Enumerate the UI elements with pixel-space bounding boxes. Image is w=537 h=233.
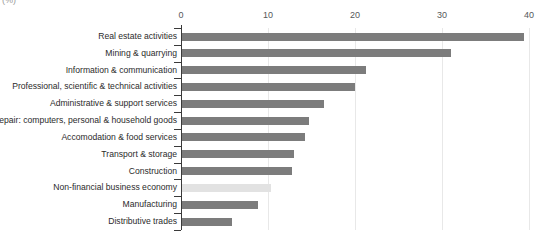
x-tick-label-30: 30 — [437, 10, 447, 20]
y-axis-tick — [174, 112, 181, 113]
y-axis-tick — [174, 45, 181, 46]
category-label: Information & communication — [66, 65, 177, 75]
x-axis-tick-labels: 010203040 — [0, 10, 537, 24]
y-axis-tick — [174, 78, 181, 79]
category-label: Manufacturing — [123, 199, 177, 209]
bar-row-end — [0, 230, 537, 233]
bar — [182, 117, 309, 125]
y-axis-tick — [174, 196, 181, 197]
category-label: Construction — [129, 166, 177, 176]
category-label: Repair: computers, personal & household … — [0, 115, 177, 125]
bar — [182, 133, 305, 141]
bar-row: Information & communication — [0, 62, 537, 79]
y-axis-tick — [174, 213, 181, 214]
bar — [182, 167, 292, 175]
bar-chart: (%) 010203040 Real estate activitiesMini… — [0, 0, 537, 233]
y-axis-tick — [174, 230, 181, 231]
category-label: Administrative & support services — [50, 98, 177, 108]
x-tick-label-40: 40 — [524, 10, 534, 20]
bar-row: Accomodation & food services — [0, 129, 537, 146]
bar-row: Mining & quarrying — [0, 45, 537, 62]
bar — [182, 49, 451, 57]
bar-row: Administrative & support services — [0, 95, 537, 112]
bar — [182, 184, 271, 192]
y-axis-tick — [174, 28, 181, 29]
category-label: Non-financial business economy — [53, 182, 177, 192]
bar-row: Manufacturing — [0, 196, 537, 213]
bar — [182, 150, 294, 158]
bar — [182, 83, 355, 91]
x-tick-label-20: 20 — [350, 10, 360, 20]
category-label: Distributive trades — [108, 216, 177, 226]
bar — [182, 33, 524, 41]
bar-row: Construction — [0, 163, 537, 180]
bar — [182, 100, 324, 108]
y-axis-tick — [174, 129, 181, 130]
y-axis-tick — [174, 62, 181, 63]
y-axis-tick — [174, 179, 181, 180]
bar-row: Real estate activities — [0, 28, 537, 45]
category-label: Professional, scientific & technical act… — [12, 81, 177, 91]
y-axis-tick — [174, 146, 181, 147]
category-label: Transport & storage — [101, 149, 177, 159]
unit-label: (%) — [2, 0, 16, 5]
bar-row: Non-financial business economy — [0, 179, 537, 196]
x-tick-label-10: 10 — [263, 10, 273, 20]
bar-row: Distributive trades — [0, 213, 537, 230]
category-label: Real estate activities — [98, 31, 177, 41]
category-label: Accomodation & food services — [61, 132, 177, 142]
bar — [182, 218, 232, 226]
bar — [182, 66, 366, 74]
bar-row: Professional, scientific & technical act… — [0, 78, 537, 95]
bar-row: Transport & storage — [0, 146, 537, 163]
bar-row: Repair: computers, personal & household … — [0, 112, 537, 129]
x-tick-label-0: 0 — [178, 10, 183, 20]
category-label: Mining & quarrying — [105, 48, 177, 58]
y-axis-tick — [174, 163, 181, 164]
y-axis-tick — [174, 95, 181, 96]
bar — [182, 201, 258, 209]
